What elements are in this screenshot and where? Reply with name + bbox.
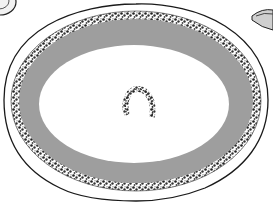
platter-well bbox=[39, 45, 229, 163]
platter bbox=[4, 4, 268, 201]
partial-dish-top-left bbox=[0, 0, 16, 15]
partial-dish-top-right bbox=[252, 10, 273, 30]
